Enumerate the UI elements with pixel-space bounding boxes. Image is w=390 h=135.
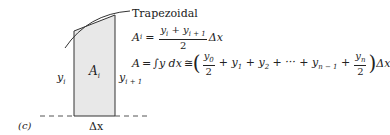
area-label: Ai bbox=[89, 65, 100, 80]
width-label: Δx bbox=[89, 121, 103, 132]
equation-segment-area: Ai = yi + yi + 12 Δx bbox=[132, 24, 223, 51]
method-title: Trapezoidal bbox=[132, 8, 198, 19]
panel-label: (c) bbox=[18, 121, 31, 131]
equation-total-area: A=∫y dx≅ ( y02 + y1 + y2 + ··· + yn − 1 … bbox=[132, 50, 390, 77]
left-height-label: yi bbox=[57, 72, 65, 86]
